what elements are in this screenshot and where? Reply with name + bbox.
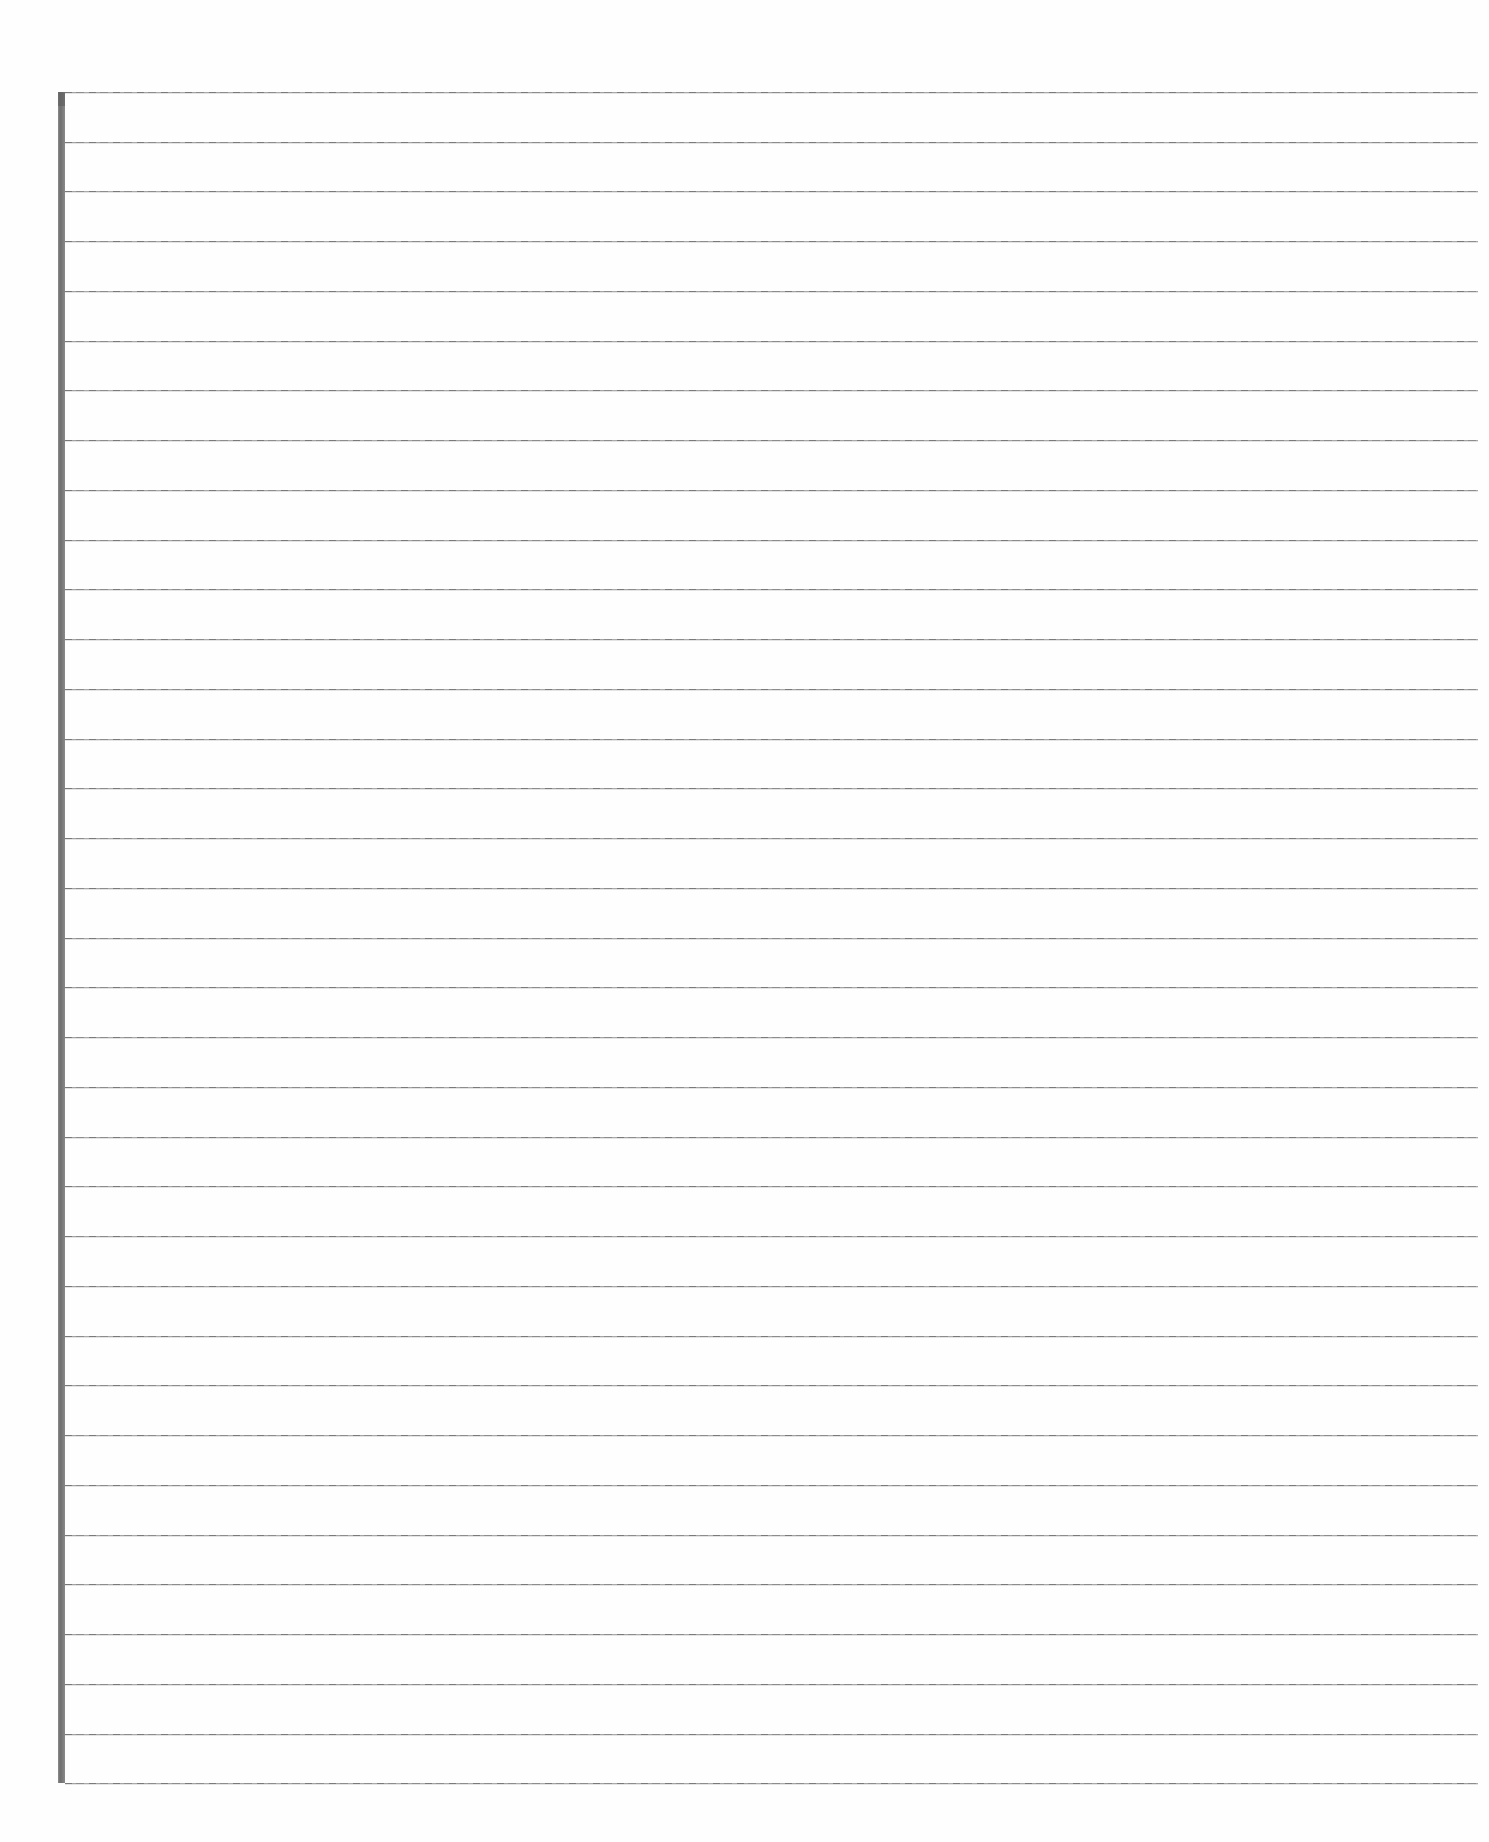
ruled-line bbox=[65, 1137, 1478, 1138]
ruled-line bbox=[65, 1684, 1478, 1685]
notebook-page bbox=[0, 0, 1489, 1842]
ruled-line bbox=[65, 142, 1478, 143]
ruled-line bbox=[65, 888, 1478, 889]
ruled-line bbox=[65, 739, 1478, 740]
vertical-margin-line bbox=[58, 92, 65, 1783]
ruled-line bbox=[65, 689, 1478, 690]
ruled-line bbox=[65, 1385, 1478, 1386]
ruled-line bbox=[65, 191, 1478, 192]
ruled-line bbox=[65, 1236, 1478, 1237]
ruled-line bbox=[65, 1584, 1478, 1585]
ruled-line bbox=[65, 1435, 1478, 1436]
ruled-line bbox=[65, 1087, 1478, 1088]
ruled-line bbox=[65, 1783, 1478, 1784]
ruled-line bbox=[65, 788, 1478, 789]
ruled-line bbox=[65, 589, 1478, 590]
ruled-line bbox=[65, 341, 1478, 342]
ruled-line bbox=[65, 987, 1478, 988]
ruled-line bbox=[65, 1634, 1478, 1635]
ruled-line bbox=[65, 1535, 1478, 1536]
ruled-line bbox=[65, 1336, 1478, 1337]
ruled-line bbox=[65, 1286, 1478, 1287]
ruled-line bbox=[65, 291, 1478, 292]
ruled-line bbox=[65, 1186, 1478, 1187]
ruled-line bbox=[65, 1485, 1478, 1486]
ruled-line bbox=[65, 938, 1478, 939]
ruled-line bbox=[65, 540, 1478, 541]
ruled-line bbox=[65, 390, 1478, 391]
ruled-writing-area[interactable] bbox=[0, 0, 1489, 1842]
ruled-line bbox=[65, 1037, 1478, 1038]
ruled-line bbox=[65, 639, 1478, 640]
ruled-line bbox=[65, 1734, 1478, 1735]
ruled-line bbox=[65, 92, 1478, 93]
ruled-line bbox=[65, 241, 1478, 242]
ruled-line bbox=[65, 838, 1478, 839]
ruled-line bbox=[65, 440, 1478, 441]
ruled-line bbox=[65, 490, 1478, 491]
